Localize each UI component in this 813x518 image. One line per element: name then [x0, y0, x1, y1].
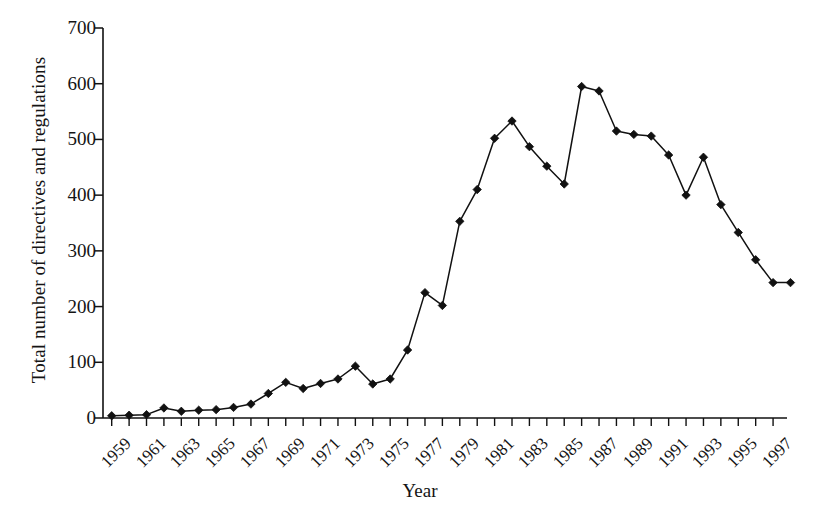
data-point-marker — [160, 404, 168, 412]
data-point-marker — [456, 217, 464, 225]
data-point-marker — [403, 346, 411, 354]
data-point-marker — [473, 185, 481, 193]
data-point-marker — [229, 403, 237, 411]
data-point-marker — [682, 191, 690, 199]
data-point-marker — [717, 200, 725, 208]
data-point-marker — [247, 400, 255, 408]
data-point-marker — [577, 82, 585, 90]
chart-figure: Total number of directives and regulatio… — [0, 0, 813, 518]
data-point-marker — [734, 228, 742, 236]
data-point-marker — [612, 127, 620, 135]
data-point-marker — [386, 375, 394, 383]
x-axis-title: Year — [330, 480, 510, 502]
data-point-marker — [195, 406, 203, 414]
data-point-marker — [316, 379, 324, 387]
data-point-marker — [212, 405, 220, 413]
data-point-marker — [699, 153, 707, 161]
plot-area — [103, 28, 787, 418]
data-point-marker — [630, 130, 638, 138]
data-point-marker — [177, 407, 185, 415]
data-point-marker — [282, 378, 290, 386]
data-point-marker — [595, 87, 603, 95]
data-point-marker — [264, 389, 272, 397]
data-point-marker — [299, 384, 307, 392]
data-series-line — [112, 87, 791, 416]
chart-canvas — [103, 28, 787, 418]
